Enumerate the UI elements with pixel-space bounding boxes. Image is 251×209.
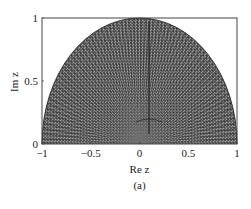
y-axis-label: Im z	[8, 72, 20, 92]
x-tick-label: 0.5	[181, 147, 195, 159]
y-tick-label: 1	[33, 12, 39, 24]
y-ticks: 00.51	[24, 12, 44, 150]
x-ticks: −1−0.500.51	[36, 142, 240, 159]
y-tick-label: 0	[33, 138, 39, 150]
plot-area	[30, 4, 250, 144]
x-tick-label: 1	[234, 147, 240, 159]
x-axis-label: Re z	[130, 163, 150, 175]
fringe-pattern	[30, 4, 250, 144]
x-tick-label: −0.5	[81, 147, 101, 159]
figure-caption: (a)	[133, 179, 146, 192]
x-tick-label: 0	[137, 147, 143, 159]
y-tick-label: 0.5	[24, 75, 38, 87]
figure: −1−0.500.51 00.51 Re z Im z (a)	[0, 0, 251, 209]
